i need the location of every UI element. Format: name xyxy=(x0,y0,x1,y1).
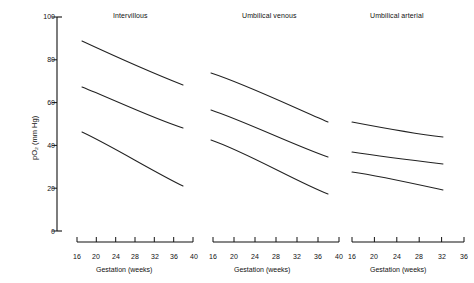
panel1-line-middle xyxy=(82,87,183,128)
panel3-line-middle xyxy=(352,152,443,164)
panel3-data-lines xyxy=(352,122,443,190)
panel3-x-axis xyxy=(352,237,464,242)
chart-figure: pO₂ (mm Hg) Intervillous Umbilical venou… xyxy=(0,0,474,283)
panel2-line-lower xyxy=(211,140,328,194)
y-axis xyxy=(52,17,62,231)
panel1-x-axis xyxy=(77,237,193,242)
panel2-data-lines xyxy=(211,73,328,194)
panel1-line-upper xyxy=(82,41,183,85)
panel2-line-upper xyxy=(211,73,328,122)
panel2-line-middle xyxy=(211,110,328,157)
panel1-line-lower xyxy=(82,132,183,186)
panel3-line-lower xyxy=(352,172,443,190)
panel3-line-upper xyxy=(352,122,443,137)
chart-canvas xyxy=(0,0,474,283)
panel2-x-axis xyxy=(213,237,339,242)
panel1-data-lines xyxy=(82,41,183,186)
